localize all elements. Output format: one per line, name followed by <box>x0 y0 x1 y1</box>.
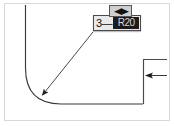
radius-value-input[interactable]: R20 <box>113 17 139 29</box>
horizontal-drag-handle[interactable]: ◀▶ <box>109 5 132 17</box>
radius-dimension-editor[interactable]: 3— R20 <box>93 15 141 31</box>
radius-leader-line <box>43 32 94 95</box>
left-right-arrow-icon: ◀▶ <box>114 7 128 16</box>
cad-drawing <box>0 0 174 126</box>
dimension-prefix-label: 3— <box>94 16 113 30</box>
right-wall-profile <box>144 60 168 105</box>
figure-canvas: 3— R20 ◀▶ Fillet radius inline dimension… <box>0 0 174 126</box>
